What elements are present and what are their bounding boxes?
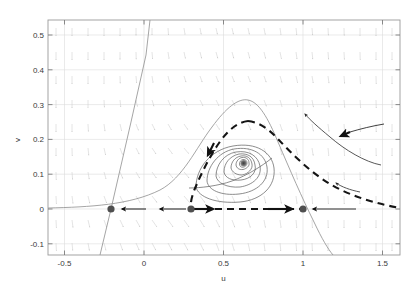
fixed-point-spiral-focus <box>240 160 246 166</box>
x-tick-label-0: -0.5 <box>58 259 72 268</box>
y-tick-label-4: 0.1 <box>33 170 45 179</box>
phase-portrait-figure: -0.5 0 0.5 1 1.5 0.5 0.4 0.3 0.2 0.1 0 -… <box>0 0 419 295</box>
phase-plane-plot: -0.5 0 0.5 1 1.5 0.5 0.4 0.3 0.2 0.1 0 -… <box>0 0 419 295</box>
y-tick-label-5: 0 <box>40 205 45 214</box>
x-tick-label-4: 1.5 <box>377 259 389 268</box>
x-axis-title: u <box>221 274 225 283</box>
x-tick-labels: -0.5 0 0.5 1 1.5 <box>58 259 389 268</box>
y-tick-label-6: -0.1 <box>30 240 44 249</box>
y-axis-title: v <box>13 138 22 142</box>
fixed-point-saddle-right <box>299 205 306 212</box>
x-tick-label-3: 1 <box>301 259 306 268</box>
y-tick-labels: 0.5 0.4 0.3 0.2 0.1 0 -0.1 <box>30 31 44 249</box>
fixed-point-stable-node-left <box>107 205 114 212</box>
x-tick-label-1: 0 <box>142 259 147 268</box>
y-tick-label-1: 0.4 <box>33 66 45 75</box>
x-tick-label-2: 0.5 <box>218 259 230 268</box>
y-tick-label-3: 0.2 <box>33 135 45 144</box>
y-tick-label-0: 0.5 <box>33 31 45 40</box>
fixed-point-saddle-middle <box>187 205 194 212</box>
y-tick-label-2: 0.3 <box>33 101 45 110</box>
